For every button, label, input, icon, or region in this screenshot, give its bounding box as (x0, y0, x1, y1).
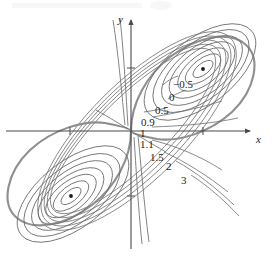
contour-label-neg-0-5: −0.5 (173, 79, 193, 90)
contour-label-0-5: 0.5 (155, 105, 169, 116)
contour-label-1-5: 1.5 (150, 152, 164, 163)
contour-plot-figure: y x −0.5 0 0.5 0.9 1 1.1 1.5 2 3 (0, 0, 272, 261)
extremum-dot-upper-right (201, 67, 205, 71)
contour-label-3: 3 (181, 175, 187, 186)
x-axis-label: x (256, 134, 261, 145)
contour-label-2: 2 (166, 161, 172, 172)
contour-canvas (0, 0, 272, 261)
extremum-dot-lower-left (69, 194, 73, 198)
y-axis-label: y (118, 14, 123, 25)
contour-label-1-1: 1.1 (140, 139, 154, 150)
contour-label-0: 0 (169, 92, 175, 103)
